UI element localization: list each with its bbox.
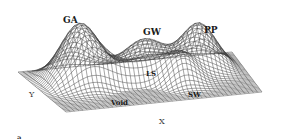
- label-gw: GW: [143, 28, 161, 37]
- label-sw: SW: [188, 91, 201, 98]
- label-ls: LS: [146, 70, 156, 77]
- wireframe-surface: [0, 0, 286, 139]
- label-void: Void: [111, 99, 128, 106]
- surface-plot-figure: GA GW PP LS Void SW Y X a: [0, 0, 286, 139]
- label-pp: PP: [204, 26, 218, 35]
- label-ga: GA: [63, 16, 78, 25]
- x-axis-label: X: [159, 118, 165, 126]
- y-axis-label: Y: [29, 91, 34, 99]
- panel-label: a: [17, 134, 22, 139]
